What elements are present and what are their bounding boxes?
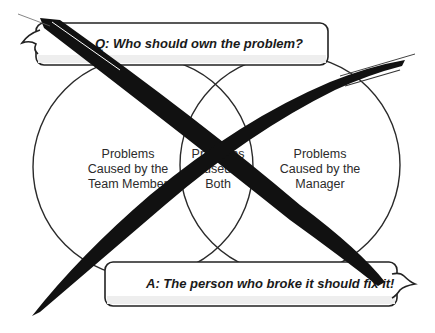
x-stroke-descending [18,14,385,286]
venn-diagram-canvas: Problems Caused by the Team Member Probl… [0,0,435,333]
cross-out-x-icon [0,0,435,333]
x-stroke-ascending [32,54,415,316]
